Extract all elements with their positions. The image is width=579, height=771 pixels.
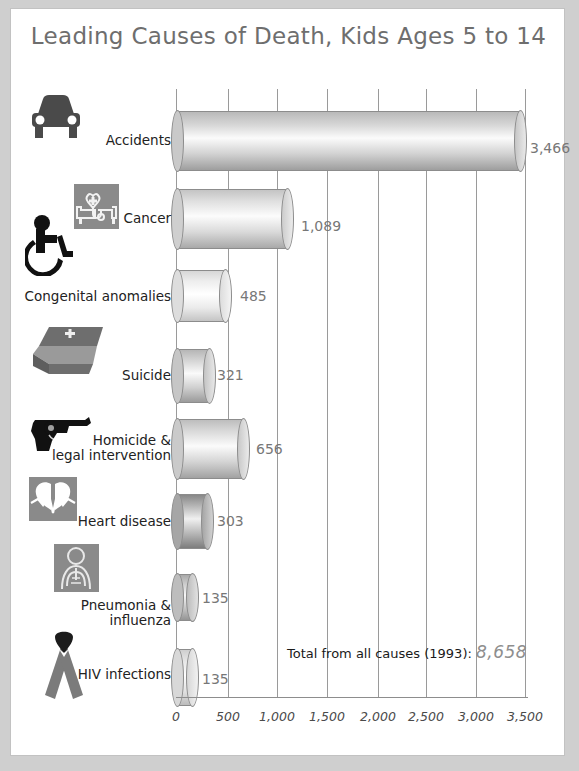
chart-panel: Leading Causes of Death, Kids Ages 5 to …	[10, 8, 565, 756]
bar-cap-left	[171, 418, 184, 480]
bar-body	[176, 419, 245, 479]
gridline-2500	[426, 89, 427, 697]
gridline-1500	[327, 89, 328, 697]
bar-cap-right	[203, 348, 216, 404]
bar-accidents	[176, 111, 521, 169]
bar-cap-right	[281, 188, 294, 250]
total-annotation-text: Total from all causes (1993):	[287, 646, 472, 661]
bar-cap-right	[186, 648, 199, 707]
value-label-suicide: 321	[217, 367, 244, 383]
x-tick-3500: 3,500	[495, 709, 555, 724]
category-label-pneumonia-influenza: Pneumonia & influenza	[19, 598, 171, 628]
lungs-person-icon	[54, 544, 99, 592]
bar-body	[176, 111, 522, 171]
bar-cap-right	[219, 269, 232, 323]
bar-homicide	[176, 419, 244, 477]
value-label-accidents: 3,466	[530, 140, 570, 156]
bar-cap-left	[171, 110, 184, 172]
plot-area: 3,466 Accidents 1,089 Cancer 485 Congeni…	[11, 9, 566, 757]
bar-cap-left	[171, 348, 184, 404]
gridline-2000	[378, 89, 379, 697]
category-label-homicide: Homicide & legal intervention	[31, 433, 171, 463]
bar-cap-right	[201, 493, 214, 550]
gridline-3500	[525, 89, 526, 697]
value-label-heart-disease: 303	[217, 513, 244, 529]
bar-cap-right	[237, 418, 250, 480]
category-label-hiv-infections: HIV infections	[31, 667, 171, 682]
total-annotation: Total from all causes (1993): 8,658	[287, 642, 527, 662]
x-tick-0: 0	[146, 709, 206, 724]
bar-congenital-anomalies	[176, 270, 226, 320]
value-label-homicide: 656	[256, 441, 283, 457]
value-label-hiv-infections: 135	[202, 671, 229, 687]
category-label-cancer: Cancer	[31, 211, 171, 226]
gridline-1000	[277, 89, 278, 697]
bar-cancer	[176, 189, 288, 247]
bar-suicide	[176, 349, 210, 401]
bar-cap-left	[171, 269, 184, 323]
bar-cap-left	[171, 188, 184, 250]
awareness-ribbon-icon	[33, 629, 95, 701]
total-annotation-number: 8,658	[476, 642, 527, 662]
bar-body	[176, 189, 289, 249]
bar-heart-disease	[176, 494, 208, 547]
category-label-heart-disease: Heart disease	[31, 514, 171, 529]
gridline-3000	[476, 89, 477, 697]
category-label-congenital-anomalies: Congenital anomalies	[19, 289, 171, 304]
bar-cap-right	[186, 573, 199, 622]
bar-pneumonia-influenza	[176, 574, 193, 619]
bar-cap-left	[171, 493, 184, 550]
bar-cap-left	[171, 648, 184, 707]
x-axis-line	[176, 697, 528, 698]
bar-cap-right	[514, 110, 527, 172]
value-label-cancer: 1,089	[301, 218, 341, 234]
category-label-accidents: Accidents	[31, 133, 171, 148]
category-label-suicide: Suicide	[31, 368, 171, 383]
value-label-congenital-anomalies: 485	[240, 288, 267, 304]
bar-cap-left	[171, 573, 184, 622]
bar-hiv-infections	[176, 649, 193, 704]
value-label-pneumonia-influenza: 135	[202, 590, 229, 606]
